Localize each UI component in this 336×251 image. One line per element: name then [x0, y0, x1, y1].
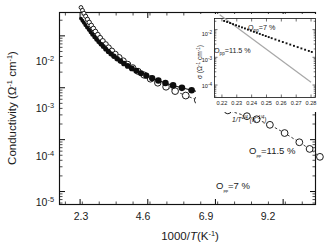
inset-x-tick-label-5: 0.27	[291, 100, 302, 106]
annotation-opp-7: Opp=7 %	[216, 180, 251, 193]
inset-data-point	[235, 24, 237, 26]
x-axis-title: 1000/T(K-1)	[161, 229, 219, 242]
chart-canvas: 10-2 10-3 10-4 10-5 2.3 4.6 6.9 9.2 Cond…	[0, 0, 336, 251]
data-point	[266, 121, 273, 128]
inset-data-point	[244, 27, 246, 29]
data-point	[138, 70, 144, 76]
inset-data-point	[241, 26, 243, 28]
data-point	[143, 73, 149, 79]
inset-data-point	[229, 22, 231, 24]
inset-data-point	[293, 45, 295, 47]
inset-data-point	[286, 42, 288, 44]
inset-data-point	[289, 44, 291, 46]
x-tick-label-0: 2.3	[74, 210, 89, 222]
inset-data-point	[268, 36, 270, 38]
x-tick-labels: 2.3 4.6 6.9 9.2	[74, 210, 276, 222]
inset-x-tick-labels: 0.220.230.240.250.260.270.28	[216, 100, 316, 106]
conductivity-arrhenius-figure: 10-2 10-3 10-4 10-5 2.3 4.6 6.9 9.2 Cond…	[0, 0, 336, 251]
y-tick-label-0: 10-2	[36, 54, 54, 67]
inset-x-tick-label-2: 0.24	[246, 100, 257, 106]
inset-data-point	[274, 39, 276, 41]
annotation-opp-115: Opp=11.5 %	[249, 145, 296, 158]
data-point	[149, 75, 155, 81]
inset-x-tick-label-4: 0.26	[276, 100, 287, 106]
y-tick-labels: 10-2 10-3 10-4 10-5	[36, 54, 54, 208]
inset-data-point	[311, 51, 313, 53]
data-point	[306, 146, 313, 153]
inset-data-point	[232, 23, 234, 25]
inset-data-point	[238, 25, 240, 27]
data-point	[179, 85, 186, 92]
data-point	[317, 153, 324, 160]
data-point	[170, 82, 177, 89]
y-tick-label-2: 10-4	[36, 149, 54, 162]
inset-x-axis-title: 1/T1/4 (K-1/4)	[232, 115, 266, 124]
x-tick-label-3: 9.2	[261, 210, 276, 222]
inset-data-point	[259, 33, 261, 35]
y-tick-label-3: 10-5	[36, 195, 54, 208]
x-tick-label-2: 6.9	[199, 210, 214, 222]
x-tick-label-1: 4.6	[136, 210, 151, 222]
data-point	[155, 77, 161, 83]
data-point	[281, 130, 288, 137]
inset-annotation-opp-7: Opp=7 %	[248, 23, 276, 33]
inset-data-point	[278, 40, 280, 42]
data-point	[188, 87, 195, 94]
data-point	[162, 80, 169, 87]
inset-data-point	[282, 41, 284, 43]
inset-data-point	[308, 50, 310, 52]
data-point	[182, 92, 189, 99]
inset-x-tick-label-6: 0.28	[306, 100, 317, 106]
inset-data-point	[300, 47, 302, 49]
inset-x-tick-label-0: 0.22	[216, 100, 227, 106]
inset-x-tick-label-1: 0.23	[231, 100, 242, 106]
inset-data-point	[262, 34, 264, 36]
inset-data-point	[226, 21, 228, 23]
inset-data-point	[297, 46, 299, 48]
inset-data-point	[265, 35, 267, 37]
y-tick-label-1: 10-3	[36, 101, 54, 114]
inset-data-point	[304, 49, 306, 51]
data-point	[296, 139, 303, 146]
inset-x-tick-label-3: 0.25	[261, 100, 272, 106]
inset-data-point	[223, 20, 225, 22]
data-point	[172, 88, 179, 95]
y-axis-title: Conductivity (Ω-1 cm-1)	[5, 51, 18, 165]
inset-data-point	[271, 37, 273, 39]
